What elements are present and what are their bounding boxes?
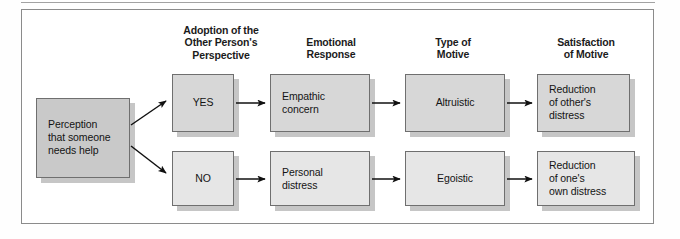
column-heading-satisfaction-of-motive: Satisfaction of Motive xyxy=(528,36,644,61)
heading-line: Adoption of the xyxy=(156,24,286,36)
node-label: YES xyxy=(173,96,233,109)
heading-line: Satisfaction xyxy=(528,36,644,48)
heading-line: Emotional xyxy=(272,36,390,48)
node-no[interactable]: NO xyxy=(172,151,234,206)
top-rule xyxy=(21,2,655,3)
node-label: Altruistic xyxy=(406,96,504,109)
node-label: Personal distress xyxy=(271,165,369,191)
node-reduction-of-ones-own-distress[interactable]: Reduction of one's own distress xyxy=(537,151,635,206)
node-perception[interactable]: Perception that someone needs help xyxy=(36,98,130,178)
node-label: Perception that someone needs help xyxy=(37,118,129,158)
heading-line: of Motive xyxy=(528,48,644,60)
node-label: Empathic concern xyxy=(271,90,369,116)
node-yes[interactable]: YES xyxy=(172,74,234,132)
node-label: NO xyxy=(173,172,233,185)
node-personal-distress[interactable]: Personal distress xyxy=(270,151,370,206)
node-empathic-concern[interactable]: Empathic concern xyxy=(270,74,370,132)
column-heading-emotional-response: Emotional Response xyxy=(272,36,390,61)
heading-line: Response xyxy=(272,48,390,60)
node-reduction-of-others-distress[interactable]: Reduction of other's distress xyxy=(537,74,630,132)
heading-line: Other Person's xyxy=(156,36,286,48)
heading-line: Perspective xyxy=(156,49,286,61)
flowchart-figure: Adoption of the Other Person's Perspecti… xyxy=(0,0,680,239)
node-altruistic[interactable]: Altruistic xyxy=(405,74,505,132)
column-heading-type-of-motive: Type of Motive xyxy=(398,36,508,61)
heading-line: Motive xyxy=(398,48,508,60)
column-heading-adoption: Adoption of the Other Person's Perspecti… xyxy=(156,24,286,61)
heading-line: Type of xyxy=(398,36,508,48)
node-egoistic[interactable]: Egoistic xyxy=(405,151,505,206)
node-label: Egoistic xyxy=(406,172,504,185)
node-label: Reduction of one's own distress xyxy=(538,159,634,199)
node-label: Reduction of other's distress xyxy=(538,83,629,123)
